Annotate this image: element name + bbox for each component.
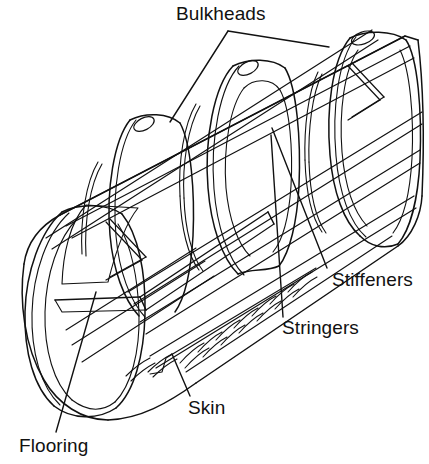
label-skin: Skin	[188, 398, 225, 417]
leader-skin	[172, 354, 190, 396]
fuselage-illustration	[0, 0, 429, 464]
label-flooring: Flooring	[19, 436, 88, 455]
flooring-panel	[55, 205, 274, 362]
label-stiffeners: Stiffeners	[332, 270, 413, 289]
label-stringers: Stringers	[282, 318, 359, 337]
leader-stringers	[271, 135, 283, 317]
leader-bulkheads-right	[228, 31, 329, 47]
fuselage-structure-diagram: Bulkheads Stiffeners Stringers Skin Floo…	[0, 0, 429, 464]
label-bulkheads: Bulkheads	[176, 4, 266, 23]
stringers-upper	[46, 30, 414, 249]
